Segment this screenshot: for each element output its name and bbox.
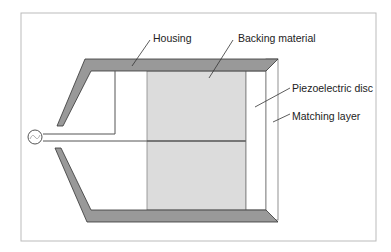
- label-housing: Housing: [153, 32, 192, 44]
- label-piezoelectric-disc: Piezoelectric disc: [292, 82, 373, 94]
- label-matching-layer: Matching layer: [292, 110, 361, 122]
- label-backing-material: Backing material: [238, 32, 316, 44]
- transducer-diagram: Housing Backing material Piezoelectric d…: [0, 0, 391, 252]
- piezoelectric-disc: [246, 71, 266, 210]
- matching-layer: [266, 59, 278, 220]
